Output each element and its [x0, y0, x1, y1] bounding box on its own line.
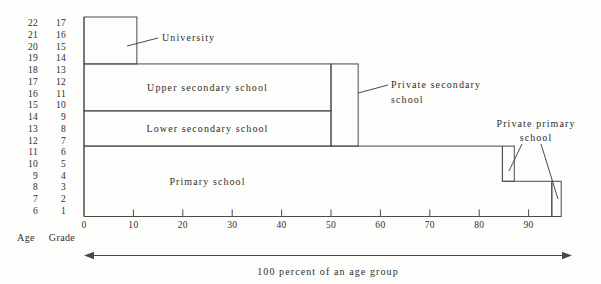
grade-value: 1	[61, 206, 66, 216]
university-label: University	[162, 32, 215, 43]
age-value: 19	[28, 53, 38, 63]
age-value: 10	[28, 159, 38, 169]
grade-value: 14	[56, 53, 66, 63]
percent-arrow-left-head	[84, 252, 94, 259]
private-secondary-label-line1: Private secondary	[391, 79, 481, 90]
x-tick-label: 30	[227, 220, 237, 230]
primary-school-label: Primary school	[169, 176, 245, 187]
age-value: 11	[28, 147, 38, 157]
grade-value: 15	[56, 42, 66, 52]
age-value: 14	[28, 112, 38, 122]
lower-secondary-label: Lower secondary school	[147, 123, 269, 134]
grade-value: 9	[61, 112, 66, 122]
primary-school-box	[84, 146, 552, 216]
age-value: 15	[28, 100, 38, 110]
percent-arrow-label: 100 percent of an age group	[257, 266, 399, 277]
grade-value: 17	[56, 18, 66, 28]
x-tick-label: 70	[425, 220, 435, 230]
age-axis-label: Age	[17, 232, 35, 243]
education-enrollment-figure: 0102030405060708090222120191817161514131…	[0, 0, 601, 284]
grade-value: 3	[61, 182, 66, 192]
x-tick-label: 40	[277, 220, 287, 230]
x-tick-label: 60	[375, 220, 385, 230]
private-secondary-leader-line	[358, 85, 388, 93]
grade-value: 12	[56, 77, 66, 87]
age-value: 20	[28, 42, 38, 52]
private-primary-lower-box	[552, 181, 561, 216]
grade-value: 6	[61, 147, 66, 157]
private-primary-label-line2: school	[520, 132, 553, 143]
percent-arrow-right-head	[562, 252, 572, 259]
x-tick-label: 90	[524, 220, 534, 230]
private-secondary-box	[331, 64, 358, 146]
private-primary-leader-line-1	[509, 144, 522, 171]
age-value: 7	[33, 194, 38, 204]
grade-value: 7	[61, 136, 66, 146]
grade-value: 16	[56, 30, 66, 40]
x-tick-label: 50	[326, 220, 336, 230]
age-value: 16	[28, 89, 38, 99]
age-value: 13	[28, 124, 38, 134]
private-primary-leader-line-2	[541, 144, 558, 199]
university-box	[84, 17, 137, 64]
university-leader-line	[127, 38, 158, 46]
private-secondary-label-line2: school	[391, 94, 424, 105]
age-value: 22	[28, 18, 38, 28]
grade-value: 2	[61, 194, 66, 204]
age-value: 6	[33, 206, 38, 216]
grade-value: 10	[56, 100, 66, 110]
grade-axis-label: Grade	[49, 232, 76, 243]
grade-value: 8	[61, 124, 66, 134]
grade-value: 5	[61, 159, 66, 169]
age-value: 8	[33, 182, 38, 192]
age-value: 18	[28, 65, 38, 75]
grade-value: 13	[56, 65, 66, 75]
x-tick-label: 20	[178, 220, 188, 230]
private-primary-label-line1: Private primary	[497, 118, 576, 129]
grade-value: 11	[56, 89, 66, 99]
enrollment-diagram-canvas: 0102030405060708090222120191817161514131…	[0, 0, 601, 284]
x-tick-label: 80	[474, 220, 484, 230]
age-value: 17	[28, 77, 38, 87]
age-value: 12	[28, 136, 38, 146]
age-value: 21	[28, 30, 38, 40]
x-tick-label: 10	[128, 220, 138, 230]
grade-value: 4	[61, 171, 66, 181]
age-value: 9	[33, 171, 38, 181]
x-tick-label: 0	[81, 220, 86, 230]
upper-secondary-label: Upper secondary school	[147, 82, 268, 93]
